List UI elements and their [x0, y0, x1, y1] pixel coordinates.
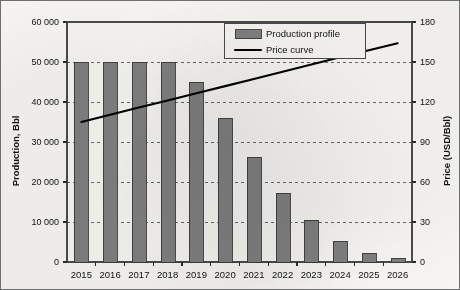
chart-canvas: 010 00020 00030 00040 00050 00060 000 03…: [1, 1, 460, 290]
right-axis-tick-label: 120: [420, 97, 435, 107]
right-axis-title: Price (USD/Bbl): [441, 116, 452, 186]
category-axis-ticks: 2015201620172018201920202021202220232024…: [71, 262, 408, 280]
right-axis-tick-label: 30: [420, 217, 430, 227]
category-axis-tick-label: 2025: [358, 269, 379, 280]
category-axis-tick-label: 2018: [157, 269, 178, 280]
left-axis-tick-label: 50 000: [31, 57, 59, 67]
right-axis-tick-label: 90: [420, 137, 430, 147]
category-axis-tick-label: 2015: [71, 269, 92, 280]
left-axis-ticks: 010 00020 00030 00040 00050 00060 000: [31, 17, 67, 267]
category-axis-tick-label: 2020: [215, 269, 236, 280]
category-axis-tick-label: 2023: [301, 269, 322, 280]
left-axis-title: Production, Bbl: [10, 116, 21, 187]
left-axis-tick-label: 20 000: [31, 177, 59, 187]
right-axis-ticks: 0306090120150180: [412, 17, 435, 267]
category-axis-tick-label: 2026: [387, 269, 408, 280]
right-axis-tick-label: 180: [420, 17, 435, 27]
gridlines: [67, 62, 412, 222]
left-axis-tick-label: 0: [54, 257, 59, 267]
category-axis-tick-label: 2021: [243, 269, 264, 280]
category-axis-tick-label: 2017: [128, 269, 149, 280]
left-axis-tick-label: 60 000: [31, 17, 59, 27]
bar-series-production-profile: [74, 62, 405, 262]
left-axis-tick-label: 10 000: [31, 217, 59, 227]
legend-entry-label: Production profile: [266, 28, 340, 39]
right-axis-tick-label: 60: [420, 177, 430, 187]
chart-legend: Production profilePrice curve: [224, 23, 365, 58]
legend-swatch-production-profile: [235, 30, 261, 39]
right-axis-tick-label: 0: [420, 257, 425, 267]
right-axis-tick-label: 150: [420, 57, 435, 67]
chart-figure: 010 00020 00030 00040 00050 00060 000 03…: [0, 0, 460, 290]
left-axis-tick-label: 30 000: [31, 137, 59, 147]
category-axis-tick-label: 2016: [100, 269, 121, 280]
category-axis-tick-label: 2022: [272, 269, 293, 280]
left-axis-tick-label: 40 000: [31, 97, 59, 107]
category-axis-tick-label: 2024: [330, 269, 351, 280]
legend-entry-label: Price curve: [266, 44, 314, 55]
category-axis-tick-label: 2019: [186, 269, 207, 280]
